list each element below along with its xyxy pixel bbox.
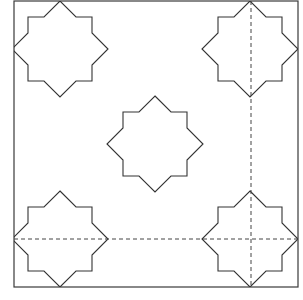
tiling-diagram <box>0 0 303 300</box>
star-group <box>12 1 298 287</box>
star-shape <box>202 1 298 97</box>
frame-border <box>14 1 298 287</box>
star-shape <box>12 1 108 97</box>
star-shape <box>107 96 203 192</box>
guide-lines <box>14 1 298 287</box>
pattern-svg <box>0 0 303 300</box>
